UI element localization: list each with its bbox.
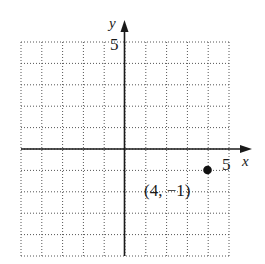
y-axis-label: y <box>107 15 116 31</box>
coordinate-plane: y 5 x 5 (4, −1) <box>0 0 265 264</box>
y-tick-5-label: 5 <box>110 35 119 54</box>
x-tick-5-label: 5 <box>222 155 231 174</box>
y-axis-arrow-icon <box>121 20 129 32</box>
data-point-label: (4, −1) <box>144 181 190 200</box>
x-axis-arrow-icon <box>240 145 252 153</box>
x-axis-label: x <box>241 153 249 169</box>
data-point <box>203 166 212 175</box>
